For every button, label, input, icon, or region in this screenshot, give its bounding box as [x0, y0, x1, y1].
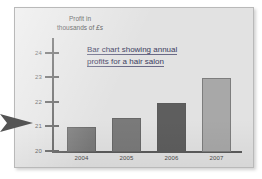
- y-axis-caption-prefix: thousands of: [57, 24, 96, 31]
- y-tick-label-24: 24: [35, 50, 42, 56]
- x-tick-label-2005: 2005: [119, 155, 133, 161]
- y-tick-24: 24: [45, 52, 59, 54]
- chart-title-line-2: profits for a hair salon: [87, 57, 164, 67]
- y-axis-line: [52, 38, 54, 152]
- x-tick-label-2007: 2007: [209, 155, 223, 161]
- y-axis-caption: Profit in thousands of £s: [37, 14, 123, 32]
- chart-title-line-1: Bar chart showing annual: [87, 45, 177, 55]
- currency-symbol: £s: [96, 24, 103, 31]
- y-axis-caption-line-1: Profit in: [37, 14, 123, 23]
- y-axis-caption-line-2: thousands of £s: [37, 23, 123, 32]
- y-tick-label-21: 21: [35, 123, 42, 129]
- bar-2007: 2007: [202, 78, 231, 152]
- bar-chart: Profit in thousands of £s Bar chart show…: [15, 8, 254, 168]
- chart-title: Bar chart showing annual profits for a h…: [87, 44, 215, 68]
- x-tick-label-2004: 2004: [74, 155, 88, 161]
- y-tick-label-22: 22: [35, 99, 42, 105]
- y-tick-23: 23: [45, 76, 59, 78]
- arrow-pointer-icon: [0, 112, 34, 134]
- y-tick-label-23: 23: [35, 74, 42, 80]
- y-tick-21: 21: [45, 125, 59, 127]
- y-tick-22: 22: [45, 101, 59, 103]
- bar-2006: 2006: [157, 103, 186, 152]
- y-tick-20: 20: [45, 150, 59, 152]
- x-tick-label-2006: 2006: [164, 155, 178, 161]
- bar-2004: 2004: [67, 127, 96, 152]
- slide-card: Profit in thousands of £s Bar chart show…: [14, 7, 254, 168]
- y-tick-label-20: 20: [35, 148, 42, 154]
- bar-2005: 2005: [112, 118, 141, 152]
